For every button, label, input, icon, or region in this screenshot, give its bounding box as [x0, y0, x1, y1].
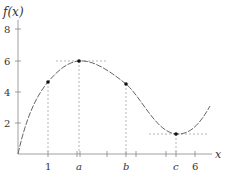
y-tick-label-8: 8: [4, 24, 10, 35]
y-tick-label-2: 2: [4, 118, 10, 129]
x-tick-label-a: a: [76, 161, 82, 172]
chart: f(x) x 2 4 6 8 1 a b c 6: [0, 0, 227, 177]
dashed-guides: [48, 61, 207, 154]
x-tick-label-b: b: [123, 161, 129, 172]
x-tick-label-6: 6: [192, 161, 198, 172]
point-1: [46, 80, 50, 84]
point-c: [174, 132, 178, 136]
x-tick-label-1: 1: [45, 161, 51, 172]
point-a: [77, 59, 81, 63]
point-b: [124, 82, 128, 86]
y-tick-label-4: 4: [4, 87, 10, 98]
y-axis-label: f(x): [2, 5, 24, 19]
chart-svg: f(x) x 2 4 6 8 1 a b c 6: [0, 0, 227, 177]
y-tick-label-6: 6: [4, 56, 10, 67]
x-axis-label: x: [215, 148, 222, 161]
x-tick-label-c: c: [173, 161, 179, 172]
function-curve: [18, 61, 210, 154]
